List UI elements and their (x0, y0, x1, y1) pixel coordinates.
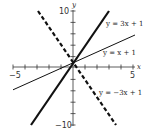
label-y-3x-plus-1: y = 3x + 1 (105, 20, 143, 28)
y-max-tick-label: 10 (59, 7, 69, 16)
y-axis-label: y (71, 1, 77, 9)
label-y-x-plus-1: y = x + 1 (102, 49, 136, 57)
x-min-tick-label: −5 (9, 71, 21, 80)
series-y-x-plus-1 (13, 35, 135, 90)
line-chart: −5 5 x 10 −10 y y = 3x + 1 y = x + 1 y =… (0, 0, 144, 133)
x-axis-label: x (137, 63, 141, 71)
x-max-tick-label: 5 (130, 71, 135, 80)
label-y-neg3x-plus-1: y = −3x + 1 (98, 89, 142, 97)
y-min-tick-label: −10 (55, 121, 72, 130)
series-y-neg3x-plus-1 (38, 11, 116, 125)
